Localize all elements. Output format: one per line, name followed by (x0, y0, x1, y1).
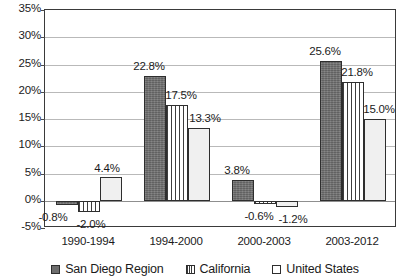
x-axis-tick-label: 2003-2012 (308, 234, 396, 248)
bar-value-label: 25.6% (307, 45, 343, 57)
y-axis-tick-label: 10% (1, 139, 41, 150)
y-axis-tick-label: 15% (1, 112, 41, 123)
california-swatch (186, 265, 195, 274)
y-axis-tick-label: 0% (1, 194, 41, 205)
san-diego-swatch (51, 265, 60, 274)
bar (56, 201, 78, 205)
y-axis-tick-label: 25% (1, 58, 41, 69)
bar (100, 177, 122, 201)
bar (276, 201, 298, 208)
bar (364, 119, 386, 201)
bar (232, 180, 254, 201)
bar-chart: 35%30%25%20%15%10%5%0%-5% -0.8%-2.0%4.4%… (0, 0, 410, 280)
legend-item: San Diego Region (51, 263, 163, 276)
bar-value-label: 22.8% (131, 60, 167, 72)
legend-item: California (186, 263, 251, 276)
bar-value-label: -0.6% (241, 210, 277, 222)
legend-item-label: San Diego Region (65, 263, 163, 276)
legend-item: United States (272, 263, 358, 276)
legend-item-label: United States (286, 263, 358, 276)
bar (254, 201, 276, 204)
bar (320, 61, 342, 201)
bar (78, 201, 100, 212)
united-states-swatch (272, 265, 281, 274)
legend-item-label: California (200, 263, 251, 276)
bar-value-label: 3.8% (219, 164, 255, 176)
x-axis-tick-label: 2000-2003 (220, 234, 308, 248)
x-axis: 1990-19941994-20002000-20032003-2012 (44, 234, 396, 252)
bar-value-label: -1.2% (275, 213, 311, 225)
y-axis-tickmark (41, 228, 45, 229)
bar-value-label: -0.8% (35, 211, 71, 223)
bar (166, 105, 188, 200)
bar-value-label: 21.8% (339, 66, 375, 78)
y-axis: 35%30%25%20%15%10%5%0%-5% (0, 0, 41, 280)
plot-area: -0.8%-2.0%4.4%22.8%17.5%13.3%3.8%-0.6%-1… (44, 9, 396, 227)
y-axis-tick-label: 35% (1, 3, 41, 14)
bar (342, 82, 364, 201)
bar-value-label: -2.0% (73, 218, 109, 230)
bar-value-label: 4.4% (89, 162, 125, 174)
chart-legend: San Diego RegionCaliforniaUnited States (0, 259, 410, 280)
x-axis-tick-label: 1994-2000 (132, 234, 220, 248)
y-axis-tick-label: 5% (1, 167, 41, 178)
y-axis-tick-label: 30% (1, 30, 41, 41)
bar-value-label: 13.3% (187, 112, 223, 124)
x-axis-tick-label: 1990-1994 (44, 234, 132, 248)
bar-value-label: 17.5% (163, 89, 199, 101)
y-axis-tick-label: 20% (1, 85, 41, 96)
bar (188, 128, 210, 200)
bar-value-label: 15.0% (361, 103, 397, 115)
